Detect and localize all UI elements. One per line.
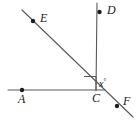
line-segment-EF [22, 10, 133, 117]
right-angle-marker-icon [84, 77, 96, 91]
angle-label-x: x° [99, 78, 106, 89]
geometry-figure: E D A C F x° [0, 0, 139, 124]
point-dot-F [115, 104, 119, 108]
point-label-C: C [92, 92, 100, 104]
degree-symbol: ° [103, 77, 106, 85]
point-label-D: D [107, 4, 116, 16]
point-dot-E [31, 19, 35, 23]
point-label-F: F [123, 95, 130, 107]
point-label-A: A [18, 93, 25, 105]
point-dot-D [97, 10, 101, 14]
point-label-E: E [40, 12, 47, 24]
